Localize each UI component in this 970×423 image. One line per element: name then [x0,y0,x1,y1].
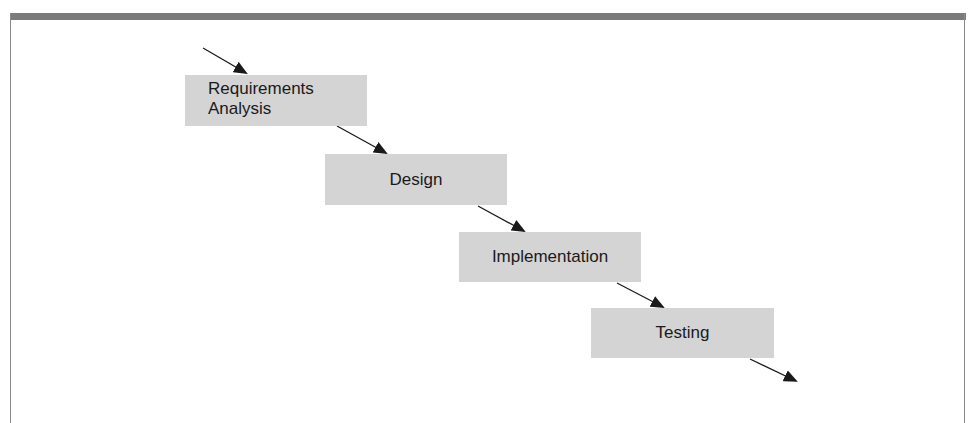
arrow-implementation-to-testing [617,283,663,307]
stage-label-line-2: Analysis [208,99,271,119]
arrow-testing-to-exit [750,359,796,381]
arrow-entry-to-requirements [203,48,246,73]
stage-label: Testing [656,323,710,343]
stage-label-line-1: Requirements [208,79,314,99]
arrow-design-to-implementation [478,206,524,231]
stage-design: Design [325,154,507,205]
stage-label: Implementation [492,247,608,267]
stage-testing: Testing [591,308,774,358]
stage-implementation: Implementation [459,232,641,282]
arrow-requirements-to-design [337,126,386,153]
stage-requirements-analysis: Requirements Analysis [185,75,367,126]
stage-label: Design [390,170,443,190]
